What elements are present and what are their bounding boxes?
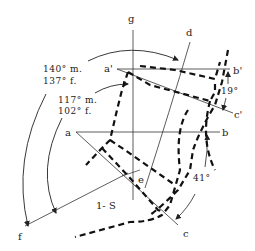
label-b: b (222, 127, 228, 138)
label-c: c (183, 228, 189, 239)
arc-137 (23, 94, 46, 226)
line-a-c (76, 132, 178, 225)
angle-lower-male: 117° m. (58, 95, 97, 105)
angle-upper-female: 137° f. (43, 76, 77, 86)
label-a-prime: a' (104, 63, 113, 74)
label-g: g (128, 13, 135, 24)
label-b-prime: b' (233, 65, 242, 76)
line-d (145, 42, 190, 188)
angle-diagram: g d a' b' c' a b c e f 1- S 140° m. 137°… (0, 0, 255, 251)
angle-right-lower: 41° (193, 173, 210, 183)
angle-lower-female: 102° f. (58, 106, 92, 116)
label-a: a (65, 127, 71, 138)
angle-upper-male: 140° m. (43, 64, 82, 74)
arc-102 (47, 118, 62, 213)
angle-right-upper: 19° (221, 86, 238, 96)
label-e: e (138, 174, 144, 185)
label-segment: 1- S (96, 200, 116, 211)
label-d: d (186, 27, 193, 38)
label-c-prime: c' (234, 109, 242, 120)
label-f: f (18, 231, 23, 242)
